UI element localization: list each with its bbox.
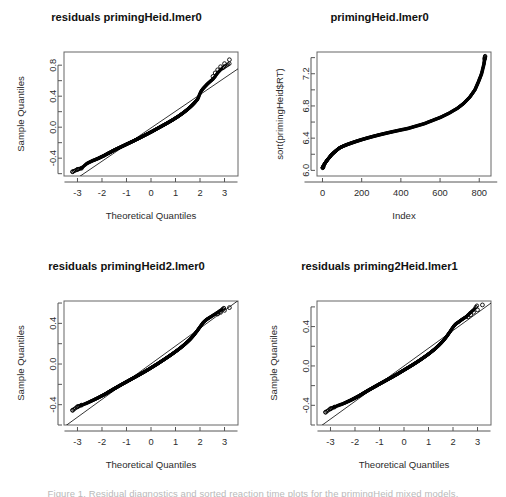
x-tick-label: -1 [122, 437, 130, 447]
panel-title: primingHeid.lmer0 [330, 11, 428, 23]
y-tick-label: 0.0 [48, 358, 58, 371]
plot-panel-4[interactable]: residuals priming2Heid.lmer1-3-2-10123Th… [253, 249, 506, 497]
x-tick-label: 2 [450, 437, 455, 447]
x-tick-label: 0 [320, 188, 325, 198]
x-tick-label: -3 [73, 188, 81, 198]
data-point [225, 249, 228, 251]
outlier-point-high [481, 303, 485, 307]
data-layer [321, 54, 487, 169]
plot-panel-1[interactable]: residuals primingHeid.lmer0-3-2-10123The… [0, 0, 253, 249]
y-tick-label: 6.4 [301, 132, 311, 145]
y-tick-label: 0.4 [48, 90, 58, 103]
x-tick-label: 3 [222, 437, 227, 447]
x-tick-label: 0 [148, 188, 153, 198]
data-point [481, 249, 484, 251]
x-axis: -3-2-10123Theoretical Quantiles [64, 178, 237, 221]
x-axis-label: Theoretical Quantiles [106, 210, 197, 221]
x-tick-label: 200 [354, 188, 370, 198]
x-tick-label: 0 [401, 437, 406, 447]
x-axis-label: Theoretical Quantiles [106, 459, 197, 470]
y-tick-label: 0.4 [48, 317, 58, 330]
y-tick-label: -0.4 [301, 397, 311, 413]
qq-reference-line [64, 301, 238, 427]
x-tick-label: -2 [98, 437, 106, 447]
y-tick-label: -0.4 [48, 150, 58, 166]
y-axis-label: sort(primingHeid$RT) [274, 68, 285, 160]
x-tick-label: 400 [393, 188, 409, 198]
plot-frame [64, 52, 238, 176]
x-tick-label: 1 [173, 437, 178, 447]
y-axis: -0.40.00.4Sample Quantiles [268, 307, 315, 425]
data-point [478, 249, 481, 251]
y-tick-label: 0.0 [301, 359, 311, 372]
x-axis: -3-2-10123Theoretical Quantiles [317, 427, 490, 470]
data-point [226, 249, 229, 251]
outlier-point-high [476, 308, 480, 312]
data-point [228, 249, 231, 251]
y-axis-label: Sample Quantiles [15, 325, 26, 401]
y-axis: 6.06.46.87.2sort(primingHeid$RT) [274, 58, 315, 177]
y-tick-label: -0.4 [48, 397, 58, 413]
y-tick-label: 6.0 [301, 164, 311, 177]
y-tick-label: 7.2 [301, 67, 311, 80]
x-tick-label: 2 [197, 188, 202, 198]
x-axis: 0200400600800Index [304, 178, 497, 221]
y-axis: -0.40.00.4Sample Quantiles [15, 303, 62, 425]
x-axis-label: Index [392, 210, 416, 221]
plot-frame [317, 52, 491, 176]
x-tick-label: -2 [98, 188, 106, 198]
y-axis-label: Sample Quantiles [268, 325, 279, 401]
x-tick-label: 3 [222, 188, 227, 198]
data-layer [64, 249, 238, 427]
x-tick-label: -3 [326, 437, 334, 447]
x-tick-label: 1 [426, 437, 431, 447]
panel-title: residuals priming2Heid.lmer1 [301, 260, 458, 272]
x-tick-label: -2 [351, 437, 359, 447]
outlier-point-high [228, 58, 232, 62]
x-tick-label: 2 [197, 437, 202, 447]
x-tick-label: 800 [471, 188, 487, 198]
x-tick-label: -3 [73, 437, 81, 447]
data-layer [317, 249, 491, 429]
figure-caption-cutoff: Figure 1. Residual diagnostics and sorte… [0, 488, 506, 497]
y-tick-label: 0.4 [301, 320, 311, 333]
plot-panel-2[interactable]: primingHeid.lmer00200400600800Index6.06.… [253, 0, 506, 249]
plot-panel-3[interactable]: residuals primingHeid2.lmer0-3-2-10123Th… [0, 249, 253, 497]
qq-reference-line [317, 303, 491, 429]
x-tick-label: 600 [432, 188, 448, 198]
data-point [224, 249, 227, 251]
data-layer [64, 58, 238, 187]
figure-grid: residuals primingHeid.lmer0-3-2-10123The… [0, 0, 506, 497]
qq-reference-line [64, 69, 238, 187]
x-tick-label: 1 [173, 188, 178, 198]
x-tick-label: -1 [375, 437, 383, 447]
x-tick-label: -1 [122, 188, 130, 198]
y-axis-label: Sample Quantiles [15, 76, 26, 152]
y-axis: -0.40.00.40.8Sample Quantiles [15, 59, 62, 174]
x-axis: -3-2-10123Theoretical Quantiles [64, 427, 237, 470]
panel-title: residuals primingHeid2.lmer0 [48, 260, 205, 272]
y-tick-label: 0.8 [48, 59, 58, 72]
data-point [477, 249, 480, 251]
x-axis-label: Theoretical Quantiles [359, 459, 450, 470]
data-point [479, 249, 482, 251]
y-tick-label: 0.0 [48, 121, 58, 134]
y-tick-label: 6.8 [301, 99, 311, 112]
panel-title: residuals primingHeid.lmer0 [51, 11, 201, 23]
x-tick-label: 3 [475, 437, 480, 447]
x-tick-label: 0 [148, 437, 153, 447]
